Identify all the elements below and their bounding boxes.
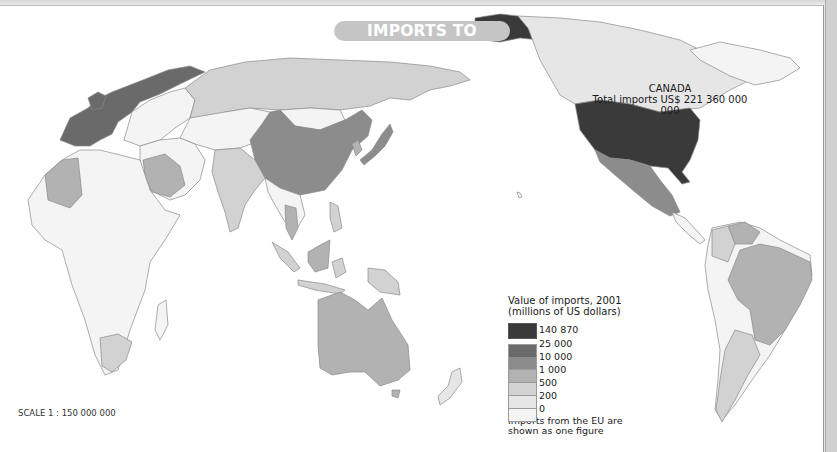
legend-label: 10 000 [539,352,572,362]
region-madagascar [155,300,168,340]
canada-label: CANADA [590,83,750,94]
region-central-america [672,212,705,244]
map-title: IMPORTS TO CANADA [334,21,510,41]
legend-scale: 140 870 25 000 10 000 1 000 500 200 0 [508,323,648,411]
legend-note-2: shown as one figure [508,426,648,436]
legend-title-2: (millions of US dollars) [508,306,648,317]
world-map [0,0,837,452]
region-south-africa [100,334,132,372]
legend-label: 0 [539,404,545,414]
legend-swatch-0 [508,409,537,422]
legend-swatch-140870 [508,323,537,339]
region-hawaii [517,192,522,198]
region-algeria [45,158,82,208]
legend-title-1: Value of imports, 2001 [508,295,648,306]
legend-swatch-10000 [508,357,537,370]
region-sulawesi [332,258,346,278]
region-new-zealand [438,368,462,405]
legend-swatch-500 [508,383,537,396]
legend-label: 1 000 [539,365,566,375]
legend: Value of imports, 2001 (millions of US d… [508,295,648,436]
legend-swatch-25000 [508,344,537,358]
map-scale: SCALE 1 : 150 000 000 [18,408,116,418]
legend-label: 25 000 [539,339,572,349]
canada-total-imports: Total imports US$ 221 360 000 000 [590,94,750,116]
region-australia [318,292,410,386]
map-page: IMPORTS TO CANADA CANADA Total imports U… [0,0,837,452]
legend-label: 140 870 [539,325,578,335]
region-thailand [285,205,298,240]
legend-label: 500 [539,378,557,388]
region-philippines [330,202,342,232]
region-tasmania [392,390,400,398]
region-indonesia-sumatra [272,242,300,272]
canada-annotation: CANADA Total imports US$ 221 360 000 000 [590,83,750,116]
region-malaysia-borneo [308,240,330,272]
region-new-guinea [368,268,400,295]
legend-swatch-200 [508,396,537,409]
legend-label: 200 [539,391,557,401]
legend-swatch-1000 [508,370,537,383]
region-indonesia-java [298,280,345,294]
